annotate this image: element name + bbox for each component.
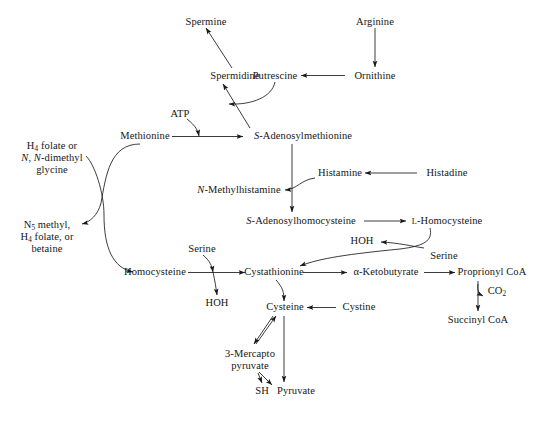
edge-sam-spermidine bbox=[223, 84, 250, 128]
node-succinyl-coa: Succinyl CoA bbox=[448, 314, 508, 326]
edge-co2-byproduct bbox=[478, 284, 483, 296]
node-arginine: Arginine bbox=[356, 16, 394, 28]
pathway-diagram: Spermine Arginine Spermidine Putrescine … bbox=[0, 0, 538, 424]
node-histamine: Histamine bbox=[318, 167, 362, 179]
node-serine-right: Serine bbox=[430, 250, 457, 262]
nmh-rest: -Methylhistamine bbox=[204, 184, 280, 195]
lhc-rest: -Homocysteine bbox=[417, 215, 482, 226]
node-cystine: Cystine bbox=[343, 301, 376, 313]
h4-dimethyl: -dimethyl bbox=[41, 152, 83, 163]
h4-rest: folate or bbox=[38, 140, 77, 151]
node-putrescine: Putrescine bbox=[253, 70, 298, 82]
node-s-adenosylhomocysteine: S-Adenosylhomocysteine bbox=[246, 215, 356, 227]
node-n5-methyl-h4-folate-betaine: N5 methyl,H4 folate, orbetaine bbox=[0, 219, 95, 256]
node-hoh-left: HOH bbox=[205, 297, 228, 309]
n5-methyl: methyl, bbox=[35, 219, 70, 230]
edge-mercapto-pyruvate bbox=[259, 372, 272, 385]
mercapto-line2: pyruvate bbox=[231, 360, 269, 371]
node-n-methylhistamine: N-Methylhistamine bbox=[197, 184, 280, 196]
node-hoh-right: HOH bbox=[350, 235, 373, 247]
mercapto-line1: 3-Mercapto bbox=[225, 348, 275, 359]
edge-lhomocysteine-cystathionine bbox=[300, 228, 431, 266]
node-s-adenosylmethionine: S-Adenosylmethionine bbox=[254, 130, 352, 142]
edge-cysteine-mercapto bbox=[254, 316, 273, 344]
node-co2: CO2 bbox=[488, 285, 507, 297]
node-ornithine: Ornithine bbox=[354, 70, 395, 82]
n5-sub: 5 bbox=[31, 224, 35, 232]
node-histadine: Histadine bbox=[426, 167, 467, 179]
edge-mercapto-cysteine bbox=[256, 316, 276, 344]
edge-histamine-nmethylhistamine bbox=[285, 178, 315, 190]
node-proprionyl-coa: Proprionyl CoA bbox=[458, 266, 527, 278]
edge-putrescine-spermidine bbox=[229, 82, 275, 104]
edge-spermidine-spermine bbox=[206, 28, 232, 68]
node-alpha-ketobutyrate: α-Ketobutyrate bbox=[353, 266, 418, 278]
co2-sub: 2 bbox=[503, 290, 507, 298]
n5-betaine: betaine bbox=[31, 243, 62, 254]
node-3-mercapto-pyruvate: 3-Mercaptopyruvate bbox=[217, 348, 283, 372]
node-sh: SH bbox=[255, 385, 269, 397]
n5-h-sub: 4 bbox=[28, 236, 32, 244]
edge-serine-hoh-right bbox=[381, 242, 424, 248]
sam-rest: -Adenosylmethionine bbox=[259, 130, 352, 141]
node-cysteine: Cysteine bbox=[266, 301, 304, 313]
node-atp: ATP bbox=[171, 108, 190, 120]
edge-cystathionine-cysteine bbox=[276, 280, 284, 301]
node-h4-folate-dimethylglycine: H4 folate orN, N-dimethylglycine bbox=[2, 140, 102, 177]
node-spermine: Spermine bbox=[185, 16, 226, 28]
h4-sub: 4 bbox=[35, 145, 39, 153]
h4-n2: N bbox=[34, 152, 41, 163]
node-serine-left: Serine bbox=[188, 243, 215, 255]
node-methionine: Methionine bbox=[120, 130, 169, 142]
h4-h: H bbox=[27, 140, 35, 151]
edge-serine-left-cofactor bbox=[203, 255, 213, 272]
node-l-homocysteine: L-Homocysteine bbox=[412, 215, 483, 228]
node-homocysteine: Homocysteine bbox=[124, 266, 186, 278]
h4-glycine: glycine bbox=[36, 164, 68, 175]
n5-folate: folate, or bbox=[32, 231, 74, 242]
edge-atp-cofactor bbox=[187, 119, 199, 136]
node-pyruvate: Pyruvate bbox=[277, 385, 315, 397]
co2-text: CO bbox=[488, 285, 503, 296]
sah-rest: -Adenosylhomocysteine bbox=[252, 215, 356, 226]
node-cystathionine: Cystathionine bbox=[244, 266, 304, 278]
edge-to-hoh-left bbox=[213, 272, 217, 295]
